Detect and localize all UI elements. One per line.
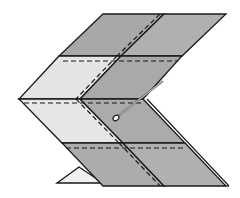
folding-diagram — [0, 0, 240, 198]
